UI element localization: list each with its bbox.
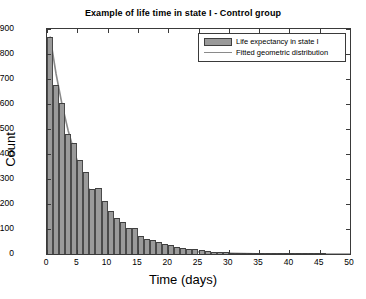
legend-item-fit: Fitted geometric distribution bbox=[202, 47, 342, 58]
y-axis-tick bbox=[47, 254, 51, 255]
x-axis-tick bbox=[108, 250, 109, 254]
x-axis-tick bbox=[77, 29, 78, 33]
y-axis-tick bbox=[47, 79, 51, 80]
legend-line-swatch-icon bbox=[204, 49, 232, 57]
y-axis-tick-label: 300 bbox=[0, 173, 14, 183]
y-axis-tick-label: 900 bbox=[0, 23, 14, 33]
x-axis-tick-label: 20 bbox=[155, 257, 179, 267]
x-axis-tick bbox=[138, 250, 139, 254]
x-axis-tick bbox=[168, 29, 169, 33]
x-axis-tick-label: 15 bbox=[125, 257, 149, 267]
x-axis-tick bbox=[199, 250, 200, 254]
plot-area bbox=[46, 28, 351, 255]
y-axis-tick-label: 0 bbox=[0, 248, 14, 258]
legend-bar-swatch-icon bbox=[204, 38, 232, 46]
chart-legend: Life expectancy in state I Fitted geomet… bbox=[198, 33, 346, 62]
x-axis-tick bbox=[77, 250, 78, 254]
y-axis-tick bbox=[346, 229, 350, 230]
x-axis-tick bbox=[259, 250, 260, 254]
y-axis-tick bbox=[346, 254, 350, 255]
y-axis-tick bbox=[346, 179, 350, 180]
y-axis-tick bbox=[346, 54, 350, 55]
y-axis-tick-label: 200 bbox=[0, 198, 14, 208]
x-axis-tick bbox=[350, 250, 351, 254]
x-axis-tick-label: 0 bbox=[34, 257, 58, 267]
y-axis-tick bbox=[47, 104, 51, 105]
x-axis-tick bbox=[108, 29, 109, 33]
y-axis-tick-label: 700 bbox=[0, 73, 14, 83]
y-axis-tick bbox=[346, 29, 350, 30]
y-axis-tick bbox=[346, 104, 350, 105]
y-axis-tick bbox=[346, 129, 350, 130]
y-axis-tick-label: 400 bbox=[0, 148, 14, 158]
y-axis-tick bbox=[47, 179, 51, 180]
y-axis-tick bbox=[346, 154, 350, 155]
y-axis-tick-label: 500 bbox=[0, 123, 14, 133]
x-axis-tick-label: 25 bbox=[186, 257, 210, 267]
x-axis-tick-label: 50 bbox=[337, 257, 361, 267]
x-axis-tick bbox=[350, 29, 351, 33]
y-axis-tick bbox=[47, 204, 51, 205]
x-axis-tick-label: 40 bbox=[276, 257, 300, 267]
x-axis-tick bbox=[289, 250, 290, 254]
x-axis-tick-label: 45 bbox=[307, 257, 331, 267]
x-axis-tick bbox=[138, 29, 139, 33]
x-axis-title: Time (days) bbox=[0, 272, 366, 287]
y-axis-tick bbox=[47, 129, 51, 130]
y-axis-tick bbox=[47, 154, 51, 155]
y-axis-tick-label: 800 bbox=[0, 48, 14, 58]
x-axis-tick-label: 30 bbox=[216, 257, 240, 267]
chart-figure: Example of life time in state I - Contro… bbox=[0, 0, 366, 299]
x-axis-tick bbox=[320, 250, 321, 254]
x-axis-tick-label: 5 bbox=[64, 257, 88, 267]
y-axis-tick-label: 600 bbox=[0, 98, 14, 108]
x-axis-tick bbox=[168, 250, 169, 254]
legend-item-bars: Life expectancy in state I bbox=[202, 36, 342, 47]
y-axis-tick bbox=[346, 79, 350, 80]
legend-label-fit: Fitted geometric distribution bbox=[236, 48, 328, 58]
legend-label-bars: Life expectancy in state I bbox=[236, 37, 319, 47]
y-axis-tick bbox=[47, 54, 51, 55]
x-axis-tick-label: 10 bbox=[95, 257, 119, 267]
y-axis-tick-label: 100 bbox=[0, 223, 14, 233]
y-axis-tick bbox=[47, 229, 51, 230]
y-axis-tick bbox=[47, 29, 51, 30]
chart-title: Example of life time in state I - Contro… bbox=[0, 8, 366, 18]
x-axis-tick-label: 35 bbox=[246, 257, 270, 267]
x-axis-tick bbox=[229, 250, 230, 254]
plot-surface bbox=[47, 29, 350, 254]
y-axis-tick bbox=[346, 204, 350, 205]
